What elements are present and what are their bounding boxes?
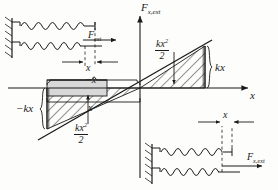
neg-x-label: −x <box>85 75 96 85</box>
neg-kx-label: −kx <box>16 103 33 114</box>
horizontal-axis-label: x <box>250 90 255 101</box>
lower-area-label: kx2 2 <box>74 122 88 145</box>
wall-hatching-top <box>5 17 12 57</box>
kx-brace <box>207 46 212 88</box>
dim-x-top-label: x <box>86 63 90 73</box>
figure-container: Fx,ext x Fext x −x x x kx −kx kx2 2 kx2 … <box>0 0 278 190</box>
vertical-axis-label: Fx,ext <box>141 2 160 16</box>
kx-label: kx <box>215 62 225 73</box>
bottom-force-label: Fx,ext <box>247 152 265 164</box>
x-span-label-bottom-left: x <box>88 103 92 113</box>
f-ext-label: Fext <box>88 30 101 42</box>
diagram-canvas <box>0 0 278 190</box>
wall-hatching-bottom <box>145 143 152 183</box>
dim-x-bottom-right-label: x <box>223 110 227 120</box>
upper-area-label: kx2 2 <box>155 38 169 61</box>
spring-system-bottom-right <box>145 122 262 184</box>
neg-kx-brace <box>40 88 45 129</box>
positive-work-triangle <box>140 46 205 88</box>
